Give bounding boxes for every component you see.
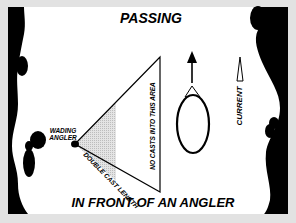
angler-label-line1: WADING (50, 127, 77, 134)
rock-left-stem (23, 149, 35, 177)
rock-top-right (250, 6, 266, 30)
wading-angler-marker (71, 141, 79, 148)
rock-right-b (265, 124, 275, 138)
title-top: PASSING (120, 10, 182, 26)
no-casts-label: NO CASTS INTO THIS AREA (149, 82, 156, 170)
passing-diagram: PASSING IN FRONT OF AN ANGLER WADING ANG… (0, 0, 296, 223)
boat-icon (177, 95, 209, 153)
angler-label-line2: ANGLER (48, 134, 77, 141)
rock-left-upper (16, 56, 28, 76)
title-bottom: IN FRONT OF AN ANGLER (72, 195, 236, 210)
current-label: CURRENT (235, 85, 244, 125)
